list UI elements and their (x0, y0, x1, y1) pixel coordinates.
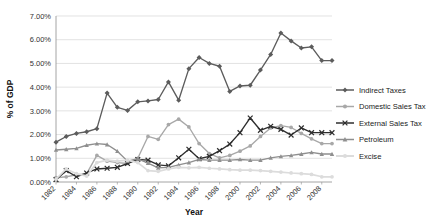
data-point (299, 126, 304, 131)
data-point (310, 137, 314, 141)
y-tick-label: 1.00% (30, 154, 52, 163)
data-point (217, 148, 222, 153)
y-tick-labels: 0.00%1.00%2.00%3.00%4.00%5.00%6.00%7.00% (30, 12, 52, 187)
y-axis-title: % of GDP (5, 79, 15, 118)
y-tick-label: 5.00% (30, 59, 52, 68)
legend-item-petroleum[interactable]: Petroleum (336, 135, 394, 144)
data-point (197, 142, 201, 146)
legend-label: Petroleum (359, 135, 394, 144)
data-point (330, 58, 335, 63)
x-tick-label: 1986 (80, 184, 98, 202)
x-tick-label: 1984 (60, 184, 78, 202)
y-tick-label: 0.00% (30, 178, 52, 187)
data-point (217, 64, 222, 69)
data-point (187, 125, 191, 129)
data-point (320, 175, 324, 179)
x-tick-label: 2000 (223, 184, 241, 202)
data-point (289, 133, 294, 138)
x-tick-label: 1990 (121, 184, 139, 202)
chart-container: 0.00%1.00%2.00%3.00%4.00%5.00%6.00%7.00%… (0, 0, 440, 224)
legend-item-excise[interactable]: Excise (336, 152, 381, 161)
data-point (136, 161, 140, 165)
data-point (343, 154, 347, 158)
x-tick-label: 1982 (39, 184, 57, 202)
legend: Indirect TaxesDomestic Sales TaxExternal… (336, 86, 426, 161)
data-point (269, 169, 273, 173)
x-tick-label: 1992 (141, 184, 159, 202)
x-axis-title: Year (185, 207, 204, 217)
data-point (259, 169, 263, 173)
data-point (64, 175, 68, 179)
legend-label: External Sales Tax (359, 119, 422, 128)
data-point (228, 168, 232, 172)
legend-item-domestic-sales-tax[interactable]: Domestic Sales Tax (336, 102, 426, 111)
data-point (207, 166, 211, 170)
x-tick-label: 1998 (203, 184, 221, 202)
data-point (343, 104, 347, 108)
data-point (238, 149, 242, 153)
y-tick-label: 3.00% (30, 107, 52, 116)
x-tick-label: 2002 (244, 184, 262, 202)
data-point (310, 173, 314, 177)
data-point (75, 172, 79, 176)
data-point (176, 155, 181, 160)
y-tick-label: 7.00% (30, 12, 52, 21)
data-point (54, 177, 58, 181)
legend-item-external-sales-tax[interactable]: External Sales Tax (336, 119, 422, 128)
data-point (238, 83, 243, 88)
x-tick-label: 2008 (305, 184, 323, 202)
data-point (94, 126, 99, 131)
data-point (289, 126, 293, 130)
legend-item-indirect-taxes[interactable]: Indirect Taxes (336, 86, 406, 95)
data-point (95, 161, 99, 165)
x-tick-label: 1988 (101, 184, 119, 202)
legend-label: Indirect Taxes (359, 86, 406, 95)
data-point (238, 168, 242, 172)
data-point (64, 167, 68, 171)
data-point (299, 132, 303, 136)
data-point (227, 89, 232, 94)
data-point (299, 172, 303, 176)
data-point (115, 159, 119, 163)
y-tick-label: 4.00% (30, 83, 52, 92)
data-point (330, 175, 334, 179)
y-tick-label: 6.00% (30, 35, 52, 44)
data-point (146, 169, 150, 173)
data-point (248, 144, 252, 148)
data-point (167, 123, 171, 127)
data-point (289, 171, 293, 175)
data-point (85, 174, 89, 178)
data-point (320, 142, 324, 146)
data-point (279, 170, 283, 174)
data-point (248, 168, 252, 172)
data-point (105, 158, 109, 162)
data-point (177, 165, 181, 169)
data-point (146, 98, 151, 103)
data-point (343, 88, 348, 93)
data-point (167, 167, 171, 171)
data-point (177, 117, 181, 121)
data-point (259, 135, 263, 139)
legend-label: Excise (359, 152, 381, 161)
data-point (186, 147, 191, 152)
x-tick-labels: 1982198419861988199019921994199619982000… (39, 184, 323, 202)
data-point (95, 154, 99, 158)
legend-label: Domestic Sales Tax (359, 102, 426, 111)
data-point (146, 135, 150, 139)
data-point (279, 124, 283, 128)
data-point (74, 131, 79, 136)
data-point (330, 142, 334, 146)
data-point (156, 169, 160, 173)
data-point (126, 158, 130, 162)
data-point (197, 165, 201, 169)
data-point (84, 129, 89, 134)
x-tick-label: 1994 (162, 184, 180, 202)
x-tick-label: 2006 (285, 184, 303, 202)
data-point (218, 167, 222, 171)
data-point (228, 154, 232, 158)
x-tick-label: 2004 (264, 184, 282, 202)
y-tick-label: 2.00% (30, 130, 52, 139)
data-point (187, 166, 191, 170)
data-point (156, 137, 160, 141)
data-point (227, 142, 232, 147)
